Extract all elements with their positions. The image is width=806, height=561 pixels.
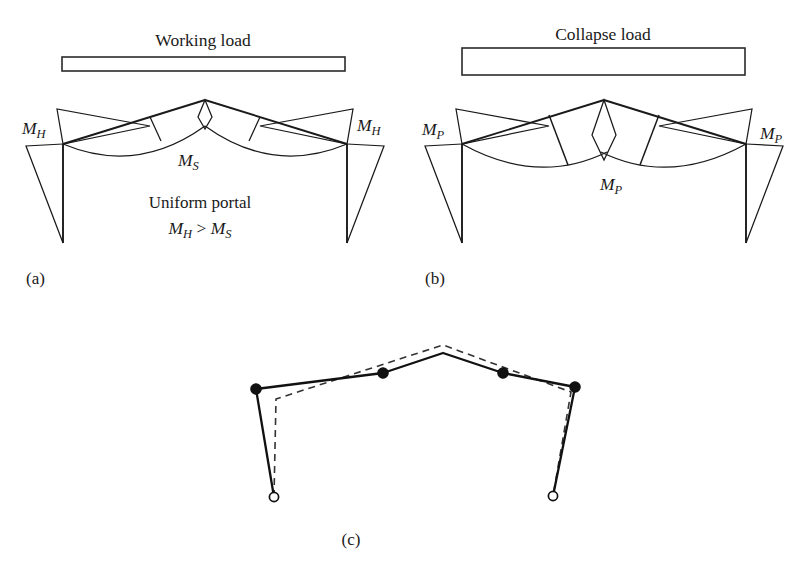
panel-a-left-haunch-triangle	[57, 109, 150, 144]
panel-a-label: (a)	[26, 269, 45, 288]
panel-b-left-haunch-label: MP	[421, 119, 445, 142]
panel-a-right-ordinate	[249, 117, 260, 141]
ineq-rhs-base: M	[210, 218, 227, 238]
panel-a-frame-type-note: Uniform portal	[149, 193, 252, 212]
panel-a-right-haunch-label: MH	[356, 115, 382, 138]
panel-b-right-column-triangle	[746, 144, 783, 243]
panel-c-plastic-hinge-left-rafter	[378, 368, 388, 378]
panel-b-apex-label-sub: P	[614, 183, 623, 197]
panel-b-apex-diamond	[592, 100, 616, 160]
panel-b-left-rafter-parabola	[462, 144, 607, 167]
panel-c-pinned-base-left	[269, 492, 278, 501]
panel-c-pinned-base-right	[548, 491, 557, 500]
panel-a: Working load	[21, 30, 384, 288]
panel-c-original-frame-dashed	[274, 345, 571, 497]
panel-a-moment-inequality: MH > MS	[167, 218, 232, 241]
panel-b-left-haunch-label-base: M	[421, 119, 438, 139]
panel-a-left-column-triangle	[26, 144, 63, 243]
panel-b-column-moment-left	[425, 144, 462, 243]
panel-b-left-haunch-triangle	[456, 109, 549, 144]
panel-c-label: (c)	[342, 530, 361, 549]
panel-a-working-load-bar	[62, 57, 345, 71]
panel-b-right-haunch-label: MP	[759, 123, 783, 146]
figure-root: Working load	[0, 0, 806, 561]
panel-b-rafter-sagging-curves	[462, 144, 746, 167]
panel-a-right-haunch-label-sub: H	[371, 124, 382, 138]
panel-a-column-moment-left	[26, 144, 63, 243]
ineq-operator: >	[196, 218, 206, 238]
panel-a-left-haunch-label: MH	[21, 118, 47, 141]
panel-b-left-column-triangle	[425, 144, 462, 243]
panel-a-left-haunch-label-base: M	[21, 118, 38, 138]
panel-b-haunch-moment-right	[659, 109, 752, 144]
panel-c-plastic-hinge-right-eaves	[570, 382, 580, 392]
panel-b-apex-label: MP	[599, 174, 623, 197]
panel-a-right-haunch-triangle	[260, 109, 353, 144]
panel-b-label: (b)	[425, 269, 445, 288]
panel-a-haunch-moment-right	[260, 109, 353, 144]
panel-a-load-title: Working load	[155, 30, 251, 50]
panel-b-frame-outline	[462, 100, 746, 243]
ineq-lhs-base: M	[167, 218, 184, 238]
panel-a-right-rafter	[205, 100, 347, 144]
panel-a-right-rafter-parabola	[205, 126, 347, 156]
panel-b-right-haunch-label-base: M	[759, 123, 776, 143]
panel-b-right-ordinate	[640, 115, 659, 165]
panel-b-collapse-load-bar	[462, 48, 745, 75]
panel-b-right-rafter	[604, 100, 746, 144]
panel-c-plastic-hinge-right-rafter	[498, 368, 508, 378]
portal-frame-figure: Working load	[0, 0, 806, 561]
panel-a-right-column-triangle	[347, 144, 384, 243]
panel-b-left-rafter	[462, 100, 604, 144]
panel-c: (c)	[251, 345, 580, 549]
panel-b-right-haunch-triangle	[659, 109, 752, 144]
panel-b-apex-label-base: M	[599, 174, 616, 194]
panel-a-apex-label-sub: S	[193, 159, 200, 173]
panel-a-left-rafter	[63, 100, 205, 144]
panel-b-ordinates	[549, 115, 659, 165]
ineq-rhs-sub: S	[225, 227, 232, 241]
panel-b-left-haunch-label-sub: P	[436, 128, 445, 142]
panel-b-right-rafter-parabola	[601, 144, 746, 167]
panel-b-load-title: Collapse load	[555, 24, 651, 44]
panel-a-haunch-moment-left	[57, 109, 150, 144]
panel-c-collapse-mechanism-solid	[256, 353, 575, 497]
panel-a-left-haunch-label-sub: H	[36, 127, 47, 141]
panel-a-apex-label-base: M	[177, 150, 194, 170]
panel-b: Collapse load MP	[421, 24, 783, 288]
panel-a-right-haunch-label-base: M	[356, 115, 373, 135]
panel-a-apex-label: MS	[177, 150, 200, 173]
panel-b-left-ordinate	[549, 115, 568, 165]
panel-a-column-moment-right	[347, 144, 384, 243]
panel-c-plastic-hinge-left-eaves	[251, 384, 261, 394]
panel-a-apex-diamond	[198, 100, 212, 129]
panel-a-left-ordinate	[150, 117, 161, 141]
panel-b-haunch-moment-left	[456, 109, 549, 144]
panel-b-column-moment-right	[746, 144, 783, 243]
panel-b-right-haunch-label-sub: P	[774, 132, 783, 146]
